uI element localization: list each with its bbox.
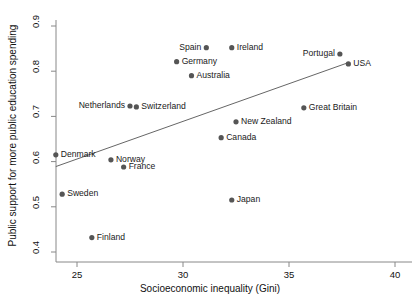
- y-axis-label-container: Public support for more public education…: [4, 0, 22, 270]
- data-point-label: Great Britain: [309, 102, 357, 112]
- data-point[interactable]: [134, 104, 139, 109]
- data-point-label: Denmark: [61, 149, 96, 159]
- y-tick-label: 0.4: [30, 238, 41, 258]
- data-point[interactable]: [60, 192, 65, 197]
- y-tick-label: 0.6: [30, 147, 41, 167]
- x-axis-label: Socioeconomic inequality (Gini): [0, 283, 420, 294]
- data-point[interactable]: [346, 61, 351, 66]
- data-point[interactable]: [229, 197, 234, 202]
- data-point[interactable]: [337, 51, 342, 56]
- data-point-label: USA: [353, 58, 371, 68]
- y-tick-label: 0.8: [30, 57, 41, 77]
- data-point-label: France: [129, 161, 156, 171]
- data-point-label: Japan: [237, 194, 260, 204]
- data-point-label: Portugal: [0, 48, 335, 58]
- x-tick-label: 25: [68, 269, 86, 280]
- data-point-label: Australia: [196, 70, 229, 80]
- x-tick-label: 30: [174, 269, 192, 280]
- x-tick-label: 40: [386, 269, 404, 280]
- data-point-label: New Zealand: [241, 116, 292, 126]
- data-point[interactable]: [301, 105, 306, 110]
- data-point[interactable]: [127, 103, 132, 108]
- y-tick-label: 0.9: [30, 12, 41, 32]
- y-tick-label: 0.5: [30, 192, 41, 212]
- data-point[interactable]: [53, 152, 58, 157]
- data-point[interactable]: [174, 59, 179, 64]
- data-point[interactable]: [189, 73, 194, 78]
- x-tick-label: 35: [280, 269, 298, 280]
- data-point[interactable]: [89, 235, 94, 240]
- data-point[interactable]: [108, 157, 113, 162]
- scatter-chart: 253035400.40.50.60.70.80.9 SpainIrelandG…: [0, 0, 420, 307]
- data-point-label: Canada: [226, 132, 256, 142]
- data-point[interactable]: [219, 135, 224, 140]
- y-axis-label: Public support for more public education…: [8, 24, 19, 246]
- data-point-label: Sweden: [67, 188, 98, 198]
- data-point-label: Finland: [97, 232, 125, 242]
- data-point-label: Switzerland: [141, 101, 185, 111]
- data-point[interactable]: [233, 119, 238, 124]
- data-point[interactable]: [121, 164, 126, 169]
